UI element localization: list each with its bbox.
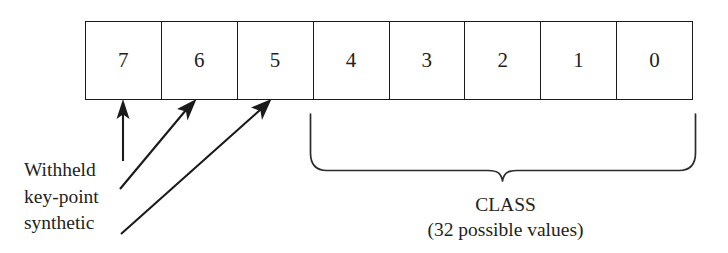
bit-cell-1: 1 [541, 22, 617, 99]
bit-cell-4: 4 [314, 22, 390, 99]
class-field-brace [311, 114, 696, 181]
bitfield-diagram: 7 6 5 4 3 2 1 0 Withheld key-po [0, 0, 728, 253]
class-field-subtitle: (32 possible values) [383, 217, 628, 242]
arrow-to-bit-6 [120, 99, 197, 189]
class-field-title: CLASS [383, 192, 628, 217]
arrow-to-bit-5 [121, 99, 272, 234]
bit-cell-0: 0 [617, 22, 692, 99]
bit-cell-3: 3 [390, 22, 466, 99]
bit-field-row: 7 6 5 4 3 2 1 0 [85, 21, 693, 100]
withheld-flags-label: Withheld key-point synthetic [24, 157, 99, 237]
bit-cell-5: 5 [238, 22, 314, 99]
withheld-flags-line-3: synthetic [24, 210, 99, 237]
bit-cell-6: 6 [162, 22, 238, 99]
arrow-to-bit-7 [117, 99, 130, 161]
bit-cell-7: 7 [86, 22, 162, 99]
withheld-flags-line-2: key-point [24, 184, 99, 211]
class-field-label: CLASS (32 possible values) [383, 192, 628, 242]
bit-cell-2: 2 [465, 22, 541, 99]
withheld-flags-line-1: Withheld [24, 157, 99, 184]
